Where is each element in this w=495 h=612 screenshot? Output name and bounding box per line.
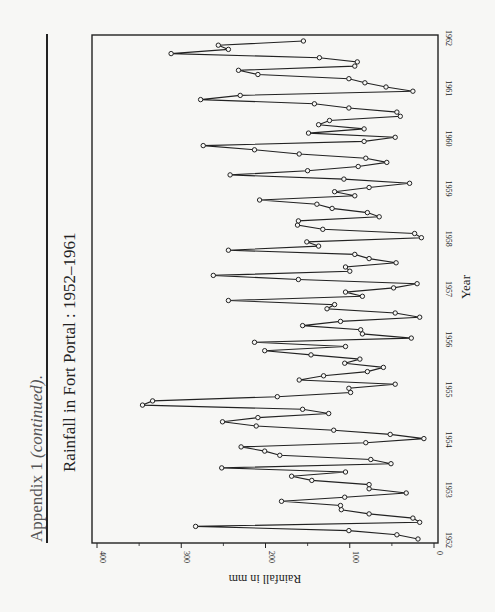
year-label: 1957 [444,281,453,297]
data-point [226,248,230,252]
data-point [343,265,347,269]
data-point [330,206,334,210]
data-point [381,365,385,369]
data-point [140,403,144,407]
data-point [365,210,369,214]
data-point [301,39,305,43]
data-point [347,106,351,110]
data-point [404,491,408,495]
data-point [238,93,242,97]
data-point [306,131,310,135]
data-point [239,445,243,449]
data-point [317,56,321,60]
data-point [418,520,422,524]
data-point [395,533,399,537]
data-point [254,424,258,428]
data-point [356,164,360,168]
data-point [338,319,342,323]
year-label: 1962 [444,30,453,46]
data-point [407,181,411,185]
data-point [300,323,304,327]
data-point [305,169,309,173]
data-point [198,97,202,101]
year-axis: 1952195319541955195619571958195919601961… [444,30,453,548]
tick-label: 400 [98,551,107,563]
tick-label: 200 [267,551,276,563]
data-point [365,369,369,373]
data-point [236,68,240,72]
page: Appendix 1 (continued). Rainfall in Fort… [0,0,495,612]
data-point [355,60,359,64]
data-point [150,399,154,403]
data-point [193,524,197,528]
data-point [353,252,357,256]
data-point [256,72,260,76]
data-point [220,466,224,470]
data-point [296,219,300,223]
data-point [343,495,347,499]
data-point [418,315,422,319]
data-point [393,311,397,315]
data-point [201,143,205,147]
data-point [362,139,366,143]
data-point [295,223,299,227]
year-label: 1955 [444,381,453,397]
year-label: 1956 [444,331,453,347]
data-point [332,190,336,194]
data-point [347,386,351,390]
data-point [275,395,279,399]
data-point [364,441,368,445]
data-point [384,85,388,89]
data-point [394,261,398,265]
data-point [367,512,371,516]
rainfall-line [143,41,424,539]
tick-label: 0 [435,551,444,555]
data-point [398,114,402,118]
data-point [362,127,366,131]
data-point [309,353,313,357]
data-point [252,148,256,152]
data-point [278,453,282,457]
data-point [256,415,260,419]
data-point [316,123,320,127]
y-axis-label: Rainfall in mm [228,572,301,586]
data-point [343,361,347,365]
data-point [388,432,392,436]
data-point [338,503,342,507]
data-point [332,302,336,306]
year-label: 1961 [444,80,453,96]
data-point [348,269,352,273]
data-point [416,537,420,541]
data-point [327,411,331,415]
data-point [343,344,347,348]
data-point [385,160,389,164]
tick-label: 300 [182,551,191,563]
data-point [422,436,426,440]
data-point [359,328,363,332]
year-label: 1954 [444,432,453,448]
data-point [226,298,230,302]
data-point [411,89,415,93]
data-point [263,349,267,353]
data-point [279,499,283,503]
data-point [220,420,224,424]
year-label: 1958 [444,231,453,247]
rainfall-axis: 0100200300400 [97,543,444,563]
data-point [263,449,267,453]
data-point [389,462,393,466]
data-point [305,240,309,244]
data-point [363,81,367,85]
data-point [393,135,397,139]
data-point [296,277,300,281]
data-point [226,47,230,51]
year-label: 1952 [444,532,453,548]
data-point [316,244,320,248]
year-label: 1953 [444,482,453,498]
data-point [347,528,351,532]
data-point [393,382,397,386]
data-point [169,51,173,55]
data-point [343,290,347,294]
data-point [367,256,371,260]
data-point [367,482,371,486]
data-point [391,286,395,290]
